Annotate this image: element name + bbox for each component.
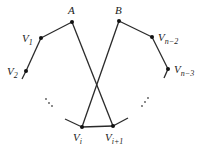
label-Vn3: Vn−3 (174, 63, 194, 78)
diagram-canvas: A B V1 V2 Vn−2 Vn−3 Vi Vi+1 (0, 0, 202, 152)
vertex-Vi (80, 125, 84, 129)
vertex-V1 (39, 36, 43, 40)
polygon-diagram: A B V1 V2 Vn−2 Vn−3 Vi Vi+1 (0, 0, 202, 152)
right-ellipsis (141, 97, 149, 107)
label-Vn2: Vn−2 (158, 31, 178, 46)
edge-Vi-Vi1 (82, 126, 113, 127)
label-B: B (115, 4, 122, 16)
vertex-V2 (24, 69, 28, 73)
left-ellipsis (45, 98, 53, 107)
vertex-Vn2 (150, 35, 154, 39)
label-Vi1: Vi+1 (105, 131, 123, 146)
vertex-Vn3 (166, 67, 170, 71)
label-V2: V2 (7, 65, 18, 80)
edge-A-V1 (41, 22, 72, 38)
vertex-B (117, 19, 121, 23)
edge-B-Vn2 (119, 21, 152, 37)
label-V1: V1 (22, 32, 33, 47)
label-A: A (67, 4, 75, 16)
edge-B-Vi (82, 21, 119, 127)
edge-Vi1-stub (113, 118, 128, 126)
edge-Vi-stub (65, 119, 82, 127)
vertex-A (70, 20, 74, 24)
label-Vi: Vi (73, 131, 82, 146)
vertex-Vi1 (111, 124, 115, 128)
edge-A-Vi1 (72, 22, 113, 126)
